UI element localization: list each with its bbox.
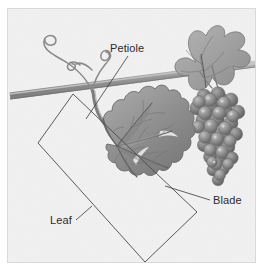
figure-root: Petiole Blade Leaf <box>0 0 264 276</box>
label-blade: Blade <box>213 194 242 206</box>
label-petiole: Petiole <box>110 42 144 54</box>
label-leaf: Leaf <box>50 214 73 226</box>
grape-vine-diagram: Petiole Blade Leaf <box>0 0 264 276</box>
